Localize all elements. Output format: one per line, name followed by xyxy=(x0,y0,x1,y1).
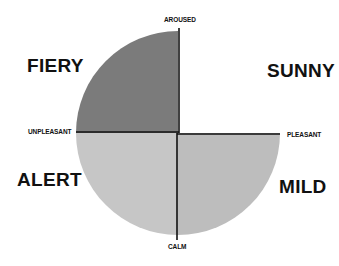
quadrant-label-mild: MILD xyxy=(279,177,327,196)
quadrant-fiery xyxy=(76,31,178,133)
axis-label-calm: CALM xyxy=(168,244,186,251)
quadrant-alert xyxy=(76,133,178,235)
axis-label-unpleasant: UNPLEASANT xyxy=(28,129,71,136)
quadrant-mild xyxy=(178,133,280,235)
axis-label-pleasant: PLEASANT xyxy=(287,132,321,139)
quadrant-label-fiery: FIERY xyxy=(27,56,84,75)
axis-label-aroused: AROUSED xyxy=(164,17,196,24)
quadrant-label-sunny: SUNNY xyxy=(267,61,335,80)
quadrant-label-alert: ALERT xyxy=(17,170,82,189)
